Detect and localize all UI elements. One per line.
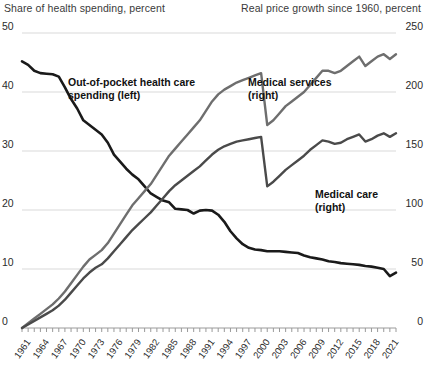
svg-text:50: 50 [2,20,14,32]
svg-text:1961: 1961 [12,337,33,361]
svg-text:1967: 1967 [48,337,69,361]
annotation-out-of-pocket: Out-of-pocket health care spending (left… [68,76,195,102]
x-axis-tick-labels: 1961196419671970197319761979198219851988… [12,337,401,361]
svg-text:30: 30 [2,138,14,150]
svg-text:100: 100 [405,197,423,209]
svg-text:1970: 1970 [67,337,88,361]
svg-text:2015: 2015 [343,337,364,361]
svg-text:1979: 1979 [122,337,143,361]
annotation-out-of-pocket-line2: spending (left) [68,89,195,102]
x-axis-ticks [22,328,396,332]
annotation-medical-services-line2: (right) [248,89,331,102]
svg-text:2000: 2000 [251,337,272,361]
svg-text:10: 10 [2,256,14,268]
svg-text:2003: 2003 [269,337,290,361]
svg-text:0: 0 [2,315,8,327]
svg-text:20: 20 [2,197,14,209]
svg-text:40: 40 [2,79,14,91]
svg-text:2012: 2012 [324,337,345,361]
svg-text:50: 50 [411,256,423,268]
svg-text:2021: 2021 [380,337,401,361]
svg-text:1985: 1985 [159,337,180,361]
svg-text:2018: 2018 [361,337,382,361]
svg-text:1982: 1982 [140,337,161,361]
chart-container: Share of health spending, percent Real p… [0,0,425,380]
svg-text:1988: 1988 [177,337,198,361]
svg-text:1973: 1973 [85,337,106,361]
annotation-medical-care: Medical care (right) [315,188,378,214]
svg-text:1991: 1991 [196,337,217,361]
annotation-out-of-pocket-line1: Out-of-pocket health care [68,76,195,89]
svg-text:1976: 1976 [104,337,125,361]
left-axis-tick-labels: 01020304050 [2,20,14,327]
annotation-medical-services-line1: Medical services [248,76,331,89]
svg-text:2006: 2006 [288,337,309,361]
svg-text:150: 150 [405,138,423,150]
svg-text:250: 250 [405,20,423,32]
svg-text:1994: 1994 [214,337,235,361]
svg-text:200: 200 [405,79,423,91]
annotation-medical-care-line1: Medical care [315,188,378,201]
svg-text:1964: 1964 [30,337,51,361]
annotation-medical-services: Medical services (right) [248,76,331,102]
annotation-medical-care-line2: (right) [315,201,378,214]
svg-text:1997: 1997 [232,337,253,361]
svg-text:2009: 2009 [306,337,327,361]
right-axis-tick-labels: 050100150200250 [405,20,423,327]
svg-text:0: 0 [417,315,423,327]
